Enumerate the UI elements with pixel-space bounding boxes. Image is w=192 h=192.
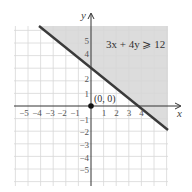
svg-text:1: 1	[85, 89, 90, 99]
svg-text:−5: −5	[79, 165, 89, 175]
test-point-label: (0, 0)	[94, 93, 116, 105]
inequality-label: 3x + 4y ⩾ 12	[106, 38, 165, 50]
svg-text:5: 5	[85, 36, 90, 46]
svg-text:−5: −5	[19, 108, 29, 118]
svg-text:−3: −3	[79, 140, 89, 150]
svg-text:1: 1	[102, 108, 107, 118]
svg-text:2: 2	[114, 108, 119, 118]
svg-text:−1: −1	[70, 108, 80, 118]
x-axis-label: x	[176, 107, 182, 119]
test-point	[88, 103, 94, 109]
svg-text:−2: −2	[79, 127, 89, 137]
svg-text:4: 4	[85, 49, 90, 59]
svg-text:−4: −4	[79, 153, 89, 163]
svg-text:2: 2	[85, 74, 90, 84]
svg-text:−2: −2	[57, 108, 67, 118]
svg-text:−3: −3	[45, 108, 55, 118]
svg-text:−1: −1	[79, 115, 89, 125]
svg-text:4: 4	[139, 108, 144, 118]
inequality-graph: x y −5 −4 −3 −2 −1 1 2 3 4 5 4 2 1 −1 −2…	[0, 0, 192, 192]
svg-text:3: 3	[127, 108, 132, 118]
svg-text:−4: −4	[32, 108, 42, 118]
y-axis-label: y	[80, 9, 86, 21]
